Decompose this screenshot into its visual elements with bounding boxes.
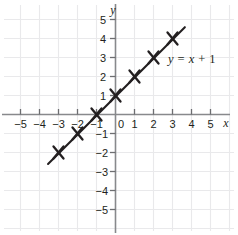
equation-equals: =: [178, 52, 185, 66]
x-axis-label: x: [222, 116, 229, 130]
coordinate-graph: −5 −4 −3 −2 −1 1 2 3 4 5 5 4 3 2 1 −1 −2…: [0, 0, 238, 235]
y-tick-label: −1: [95, 128, 108, 140]
equation-lhs: y: [166, 52, 174, 66]
graph-canvas: −5 −4 −3 −2 −1 1 2 3 4 5 5 4 3 2 1 −1 −2…: [0, 0, 238, 235]
y-tick-label: 1: [100, 90, 106, 102]
x-tick-label: −3: [52, 118, 65, 130]
y-tick-label: −3: [95, 166, 108, 178]
y-axis-label: y: [109, 3, 116, 17]
origin-label: 0: [118, 118, 124, 130]
y-tick-label: 3: [100, 52, 106, 64]
x-tick-label: −4: [33, 118, 46, 130]
y-tick-label: −4: [95, 185, 108, 197]
equation-constant: 1: [209, 52, 215, 66]
y-tick-label: −2: [95, 147, 108, 159]
x-tick-label: 1: [131, 118, 137, 130]
x-tick-label: 3: [169, 118, 175, 130]
x-tick-label: 5: [207, 118, 213, 130]
x-tick-label: −5: [14, 118, 27, 130]
y-tick-label: 2: [100, 71, 106, 83]
x-tick-label: 2: [150, 118, 156, 130]
equation-plus: +: [198, 52, 205, 66]
equation-rhs-var: x: [188, 52, 195, 66]
y-tick-label: 5: [100, 14, 106, 26]
x-tick-label: 4: [188, 118, 194, 130]
y-tick-label: 4: [100, 33, 106, 45]
y-tick-label: −5: [95, 204, 108, 216]
